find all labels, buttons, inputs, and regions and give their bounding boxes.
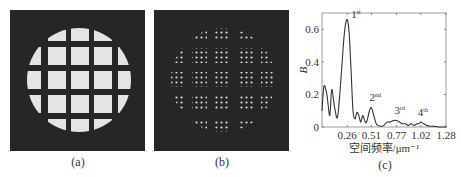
x-tick-label: 0.51 xyxy=(362,129,381,141)
x-tick-label: 1.28 xyxy=(436,129,456,141)
x-axis-label: 空间频率/μm⁻¹ xyxy=(349,141,420,154)
y-axis-label: B xyxy=(297,66,309,73)
y-tick-label: 0 xyxy=(314,121,320,133)
peak-annotation-2nd: 2nd xyxy=(369,91,381,103)
x-tick-label: 0.26 xyxy=(338,129,358,141)
y-tick-label: 0.6 xyxy=(305,23,319,35)
caption-c: (c) xyxy=(365,158,405,173)
y-tick-label: 0.4 xyxy=(305,56,319,68)
spectrum-chart: 0.260.510.771.021.2800.20.40.6B空间频率/μm⁻¹… xyxy=(0,0,461,177)
x-tick-label: 0.77 xyxy=(387,129,407,141)
y-tick-label: 0.2 xyxy=(305,88,319,100)
peak-annotation-1st: 1st xyxy=(351,8,361,20)
peak-annotation-3rd: 3rd xyxy=(395,104,406,116)
peak-annotation-4th: 4th xyxy=(418,106,428,118)
x-tick-label: 1.02 xyxy=(411,129,430,141)
